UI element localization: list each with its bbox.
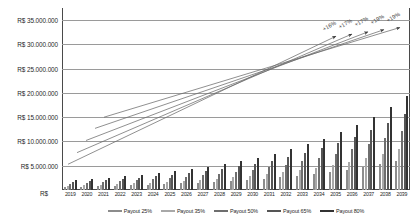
legend-color-swatch xyxy=(267,210,281,212)
bar xyxy=(114,186,116,190)
bar xyxy=(329,172,331,190)
bar xyxy=(268,167,270,190)
legend-item[interactable]: Payout 25% xyxy=(108,208,152,214)
bar-group xyxy=(128,8,145,190)
x-axis-tick-label: 2034 xyxy=(311,191,328,200)
bar xyxy=(290,149,292,190)
bar xyxy=(89,181,91,190)
bar xyxy=(232,177,234,190)
bar xyxy=(321,148,323,190)
legend-item[interactable]: Payout 50% xyxy=(214,208,258,214)
bar xyxy=(171,175,173,190)
bar xyxy=(105,180,107,190)
bar xyxy=(216,179,218,190)
y-axis-labels: R$ 35.000.000R$ 30.000.000R$ 25.000.000R… xyxy=(0,0,60,190)
legend-label: Payout 50% xyxy=(230,208,258,214)
bar-group xyxy=(311,8,328,190)
bar xyxy=(346,170,348,190)
bar xyxy=(116,184,118,190)
bar xyxy=(169,178,171,190)
y-axis-tick-label: R$ 10.000.000 xyxy=(17,138,58,145)
x-axis-tick-label: 2035 xyxy=(327,191,344,200)
x-axis-tick-label: 2032 xyxy=(278,191,295,200)
bar xyxy=(119,181,121,190)
bar xyxy=(337,143,339,190)
x-axis-labels: 2019202020212022202320242025202620272028… xyxy=(62,191,410,200)
bar-group xyxy=(195,8,212,190)
y-axis-tick-label: R$ 15.000.000 xyxy=(17,114,58,121)
bar xyxy=(91,179,93,190)
bar xyxy=(69,184,71,190)
bar xyxy=(100,185,102,190)
x-axis-tick-label: 2027 xyxy=(195,191,212,200)
bar xyxy=(390,107,392,190)
x-axis-tick-label: 2028 xyxy=(211,191,228,200)
bar xyxy=(301,161,303,190)
bar-group xyxy=(244,8,261,190)
bar xyxy=(332,165,334,190)
bar xyxy=(158,173,160,190)
legend-item[interactable]: Payout 65% xyxy=(267,208,311,214)
bar xyxy=(285,165,287,190)
bar-group xyxy=(360,8,377,190)
bar xyxy=(240,161,242,190)
legend-label: Payout 65% xyxy=(283,208,311,214)
bar xyxy=(282,172,284,190)
bar xyxy=(368,144,370,190)
bar xyxy=(356,125,358,190)
bar xyxy=(263,179,265,190)
bar-group xyxy=(327,8,344,190)
bar xyxy=(188,173,190,190)
x-axis-tick-label: 2030 xyxy=(244,191,261,200)
bar-group xyxy=(145,8,162,190)
legend-label: Payout 80% xyxy=(336,208,364,214)
bar xyxy=(136,180,138,190)
y-axis-tick-label: R$ 25.000.000 xyxy=(17,65,58,72)
bar xyxy=(379,164,381,190)
bar-group xyxy=(112,8,129,190)
bar xyxy=(149,183,151,190)
legend-item[interactable]: Payout 35% xyxy=(161,208,205,214)
legend-color-swatch xyxy=(214,210,228,212)
x-axis-tick-label: 2021 xyxy=(95,191,112,200)
x-axis-tick-label: 2031 xyxy=(261,191,278,200)
bar xyxy=(152,179,154,190)
x-axis-tick-label: 2037 xyxy=(360,191,377,200)
bar xyxy=(274,154,276,190)
bar xyxy=(348,162,350,190)
bar xyxy=(64,187,66,190)
bar xyxy=(83,185,85,190)
bar xyxy=(351,149,353,190)
bar xyxy=(230,181,232,190)
bar-group xyxy=(161,8,178,190)
bar-group xyxy=(95,8,112,190)
bar xyxy=(266,174,268,190)
bar-group xyxy=(211,8,228,190)
bar-group xyxy=(394,8,411,190)
y-axis-tick-label: R$ 30.000.000 xyxy=(17,41,58,48)
legend-color-swatch xyxy=(320,210,334,212)
bar xyxy=(235,172,237,190)
bar xyxy=(246,180,248,190)
bar xyxy=(86,183,88,190)
bar xyxy=(75,180,77,190)
x-axis-tick-label: 2025 xyxy=(161,191,178,200)
bar-group xyxy=(294,8,311,190)
bar xyxy=(398,149,400,190)
bar xyxy=(191,169,193,190)
bar xyxy=(221,169,223,190)
bar xyxy=(315,168,317,190)
bar xyxy=(102,182,104,190)
bar xyxy=(207,167,209,190)
bar xyxy=(287,157,289,190)
bar-group xyxy=(228,8,245,190)
bar xyxy=(122,179,124,190)
bar-group xyxy=(79,8,96,190)
legend-label: Payout 35% xyxy=(177,208,205,214)
legend-item[interactable]: Payout 80% xyxy=(320,208,364,214)
plot-area xyxy=(62,8,410,190)
bar xyxy=(365,158,367,190)
x-axis-tick-label: 2019 xyxy=(62,191,79,200)
bar xyxy=(124,176,126,190)
bar xyxy=(174,171,176,190)
